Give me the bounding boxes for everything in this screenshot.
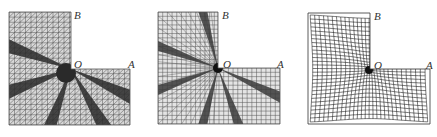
label-b: B bbox=[374, 11, 381, 22]
mesh-panel-2: B O A bbox=[146, 0, 291, 137]
mesh-panel-1: B O A bbox=[0, 0, 145, 137]
label-o: O bbox=[74, 59, 82, 70]
label-o: O bbox=[223, 59, 231, 70]
quad-mesh-with-bands-diagram bbox=[146, 0, 291, 137]
label-b: B bbox=[74, 10, 81, 21]
label-a: A bbox=[277, 59, 284, 70]
graded-quad-mesh-diagram bbox=[292, 0, 437, 137]
label-o: O bbox=[374, 60, 382, 71]
label-a: A bbox=[426, 60, 433, 71]
label-b: B bbox=[222, 10, 229, 21]
mesh-panel-3: B O A bbox=[292, 0, 437, 137]
label-a: A bbox=[128, 59, 135, 70]
triangular-mesh-diagram bbox=[0, 0, 145, 137]
